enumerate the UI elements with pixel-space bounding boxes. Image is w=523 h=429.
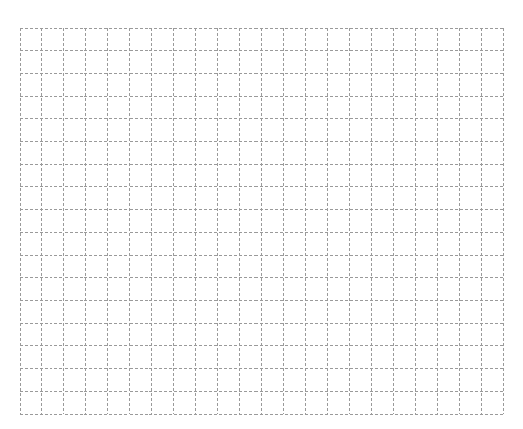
dashed-grid (0, 0, 523, 429)
grid-lines (0, 0, 523, 429)
